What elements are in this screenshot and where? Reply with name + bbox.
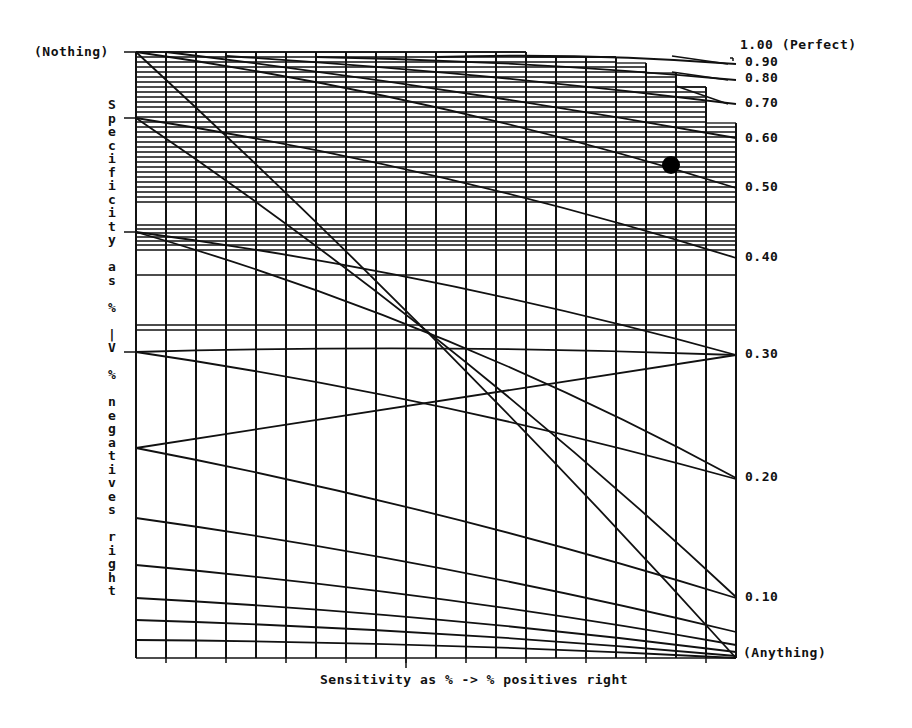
y-axis-char: i [104,179,120,193]
y-axis-char: i [104,463,120,477]
y-axis-char: r [104,530,120,544]
y-axis-char: s [104,274,120,288]
iso-curve [166,52,736,138]
y-axis-char: i [104,152,120,166]
y-axis-char: c [104,193,120,207]
y-axis-char: n [104,395,120,409]
y-axis-char: t [104,584,120,598]
y-axis-char: e [104,125,120,139]
tick-label: 0.20 [745,469,778,484]
nothing-label: (Nothing) [34,44,109,59]
y-axis-char [104,287,120,301]
y-axis-char [104,314,120,328]
y-axis-char: e [104,490,120,504]
tick-label: 0.80 [745,70,778,85]
y-axis-char [104,247,120,261]
tick-label: 0.10 [745,589,778,604]
tick-label: 0.50 [745,179,778,194]
y-axis-char: g [104,557,120,571]
anything-label: (Anything) [743,645,826,660]
y-axis-char: c [104,139,120,153]
y-axis-char: % [104,301,120,315]
y-axis-char: f [104,166,120,180]
tick-label: 0.60 [745,130,778,145]
y-axis-char: h [104,571,120,585]
y-axis-char: a [104,436,120,450]
y-axis-char [104,517,120,531]
y-axis-char: a [104,260,120,274]
y-axis-char [104,355,120,369]
tick-label: 0.70 [745,95,778,110]
x-axis-label: Sensitivity as % -> % positives right [320,672,628,687]
y-axis-label: Specificity as % |V % negatives right [104,98,120,598]
y-axis-char: v [104,476,120,490]
y-axis-char: g [104,422,120,436]
y-axis-char: S [104,98,120,112]
y-axis-char: s [104,503,120,517]
y-axis-char: p [104,112,120,126]
y-axis-char: i [104,544,120,558]
tick-label: 0.90 [745,54,778,69]
axis-ticks [124,52,733,668]
y-axis-char: i [104,206,120,220]
y-axis-char: e [104,409,120,423]
y-axis-char: t [104,220,120,234]
tick-label: 0.40 [745,249,778,264]
data-point-marker [662,156,680,174]
perfect-label: 1.00 (Perfect) [740,37,857,52]
tick-label: 0.30 [745,346,778,361]
y-axis-char: V [104,341,120,355]
y-axis-char [104,382,120,396]
y-axis-char: | [104,328,120,342]
y-axis-char: t [104,449,120,463]
y-axis-char: % [104,368,120,382]
y-axis-char: y [104,233,120,247]
